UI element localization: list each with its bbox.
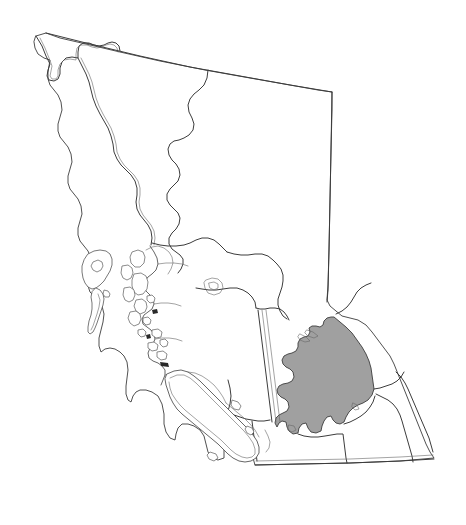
island-aristazabal <box>123 287 135 302</box>
haida-gwaii-inner-lake <box>91 260 103 272</box>
island-banks <box>121 265 133 280</box>
map-figure: British Columbia Regional Districts Thom… <box>0 0 466 525</box>
map-canvas[interactable] <box>0 0 466 525</box>
island-pitt <box>130 250 145 267</box>
